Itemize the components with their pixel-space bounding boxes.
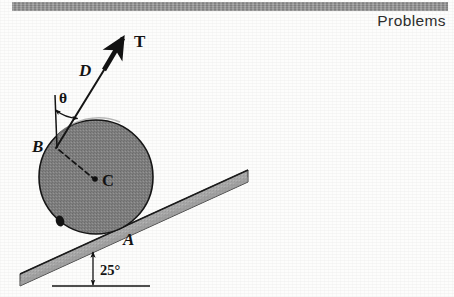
- figure-page: Problems: [0, 0, 454, 297]
- label-theta: θ: [59, 89, 67, 106]
- label-point-A: A: [122, 230, 134, 249]
- tension-vector-arrow: [104, 38, 123, 70]
- label-point-D: D: [78, 61, 91, 80]
- label-point-B: B: [31, 137, 43, 156]
- label-center-C: C: [102, 171, 114, 190]
- label-incline-angle: 25°: [100, 262, 121, 278]
- center-point-dot: [92, 176, 98, 182]
- physics-diagram: T D θ B C A 25°: [0, 0, 454, 297]
- label-tension-T: T: [134, 32, 146, 51]
